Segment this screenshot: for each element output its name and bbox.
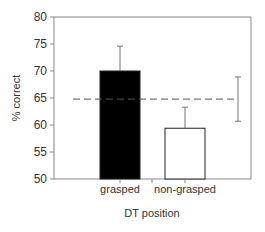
- y-tick-label: 80: [34, 10, 48, 24]
- bar-chart: 50556065707580 graspednon-grasped % corr…: [0, 0, 265, 232]
- x-tick-label: grasped: [100, 183, 140, 195]
- reference-line: [73, 77, 241, 121]
- bar-grasped: [100, 71, 140, 179]
- y-tick-label: 65: [34, 91, 48, 105]
- x-tick-label: non-grasped: [154, 183, 216, 195]
- x-axis-ticks: graspednon-grasped: [100, 179, 216, 195]
- x-axis-label: DT position: [124, 207, 179, 219]
- y-tick-label: 55: [34, 145, 48, 159]
- y-tick-label: 50: [34, 172, 48, 186]
- bar-non-grasped: [165, 128, 205, 179]
- y-tick-label: 70: [34, 64, 48, 78]
- y-axis-ticks: 50556065707580: [34, 10, 54, 186]
- y-tick-label: 75: [34, 37, 48, 51]
- bars: [100, 46, 205, 179]
- y-tick-label: 60: [34, 118, 48, 132]
- plot-frame: [54, 17, 251, 179]
- y-axis-label: % correct: [10, 75, 22, 121]
